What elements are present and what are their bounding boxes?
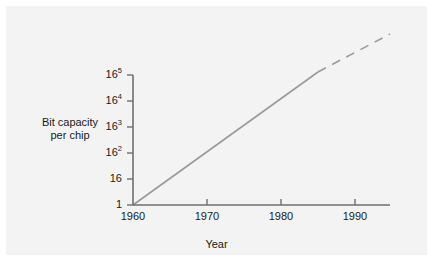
y-tick-label-16-5: 165 [82,68,122,80]
y-axis-title: Bit capacity per chip [28,116,112,142]
y-tick-label-1: 1 [82,198,122,210]
figure-panel: 1 16 162 163 164 165 1960 1970 1980 1990… [6,6,427,255]
x-tick-label-1970: 1970 [184,210,230,222]
y-tick-label-16-4: 164 [82,94,122,106]
series-line-observed [133,72,318,205]
series-line-projected [318,34,390,72]
y-tick-label-16-2: 162 [82,146,122,158]
y-tick-label-16: 16 [82,172,122,184]
x-tick-label-1980: 1980 [258,210,304,222]
x-axis-title: Year [6,238,427,251]
y-axis-ticks [127,75,133,205]
x-tick-label-1960: 1960 [110,210,156,222]
x-axis-ticks [207,199,355,205]
x-tick-label-1990: 1990 [332,210,378,222]
y-axis-title-line-2: per chip [28,129,112,142]
y-axis-title-line-1: Bit capacity [28,116,112,129]
